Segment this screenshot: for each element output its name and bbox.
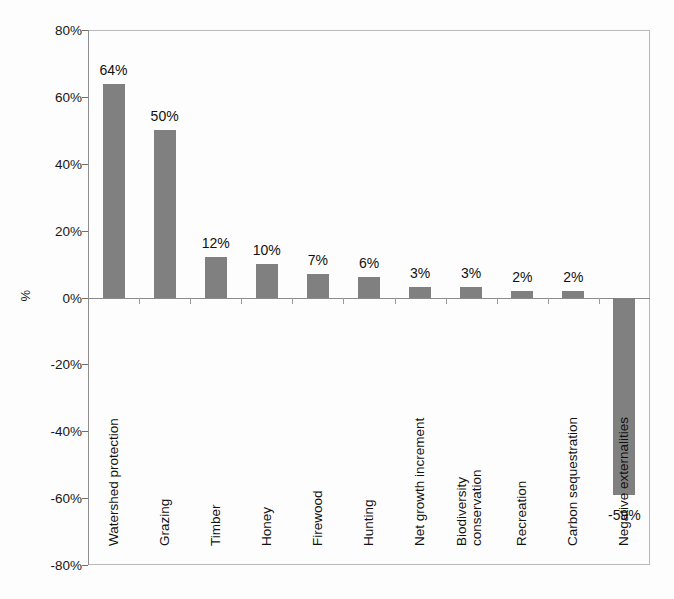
- y-axis-tick-mark: [82, 97, 88, 98]
- y-axis-tick-mark: [82, 431, 88, 432]
- y-axis-tick-mark: [82, 231, 88, 232]
- bar-value-label: 6%: [359, 255, 379, 271]
- x-axis-tick-mark: [497, 298, 498, 304]
- bar-value-label: 2%: [512, 269, 532, 285]
- x-axis-category-label: Hunting: [362, 306, 377, 546]
- bar[interactable]: [154, 130, 176, 297]
- x-axis-tick-mark: [446, 298, 447, 304]
- y-axis-tick-labels: 80%60%40%20%0%-20%-40%-60%-80%: [24, 0, 82, 599]
- bar-value-label: 3%: [461, 265, 481, 281]
- y-axis-tick-mark: [82, 565, 88, 566]
- x-axis-tick-mark: [548, 298, 549, 304]
- y-axis-tick-label: -20%: [26, 357, 82, 372]
- y-axis-tick-label: 80%: [26, 23, 82, 38]
- x-axis-tick-mark: [241, 298, 242, 304]
- y-axis-tick-label: 20%: [26, 223, 82, 238]
- bar-value-label: 3%: [410, 265, 430, 281]
- bar[interactable]: [409, 287, 431, 297]
- y-axis-tick-label: 0%: [26, 290, 82, 305]
- bar-value-label: 12%: [202, 235, 230, 251]
- bar-value-label: 64%: [100, 62, 128, 78]
- bar-value-label: 2%: [563, 269, 583, 285]
- x-axis-tick-mark: [139, 298, 140, 304]
- y-axis-tick-label: -40%: [26, 424, 82, 439]
- y-axis-tick-mark: [82, 30, 88, 31]
- x-axis-category-label: Grazing: [158, 306, 173, 546]
- y-axis-tick-mark: [82, 498, 88, 499]
- y-axis-tick-label: -80%: [26, 558, 82, 573]
- bar-value-label: 50%: [151, 108, 179, 124]
- y-axis-tick-label: 60%: [26, 89, 82, 104]
- x-axis-tick-mark: [395, 298, 396, 304]
- x-axis-tick-mark: [599, 298, 600, 304]
- x-axis-category-label: Timber: [209, 306, 224, 546]
- x-axis-category-label: Honey: [260, 306, 275, 546]
- bar[interactable]: [358, 277, 380, 297]
- x-axis-category-label: Biodiversity conservation: [455, 306, 484, 546]
- y-axis-tick-label: -60%: [26, 491, 82, 506]
- y-axis-tick-label: 40%: [26, 156, 82, 171]
- plot-area: 64%Watershed protection50%Grazing12%Timb…: [88, 30, 650, 565]
- bar[interactable]: [205, 257, 227, 297]
- x-axis-category-label: Recreation: [515, 306, 530, 546]
- bar[interactable]: [307, 274, 329, 297]
- bar[interactable]: [562, 291, 584, 298]
- y-axis-tick-mark: [82, 364, 88, 365]
- bar[interactable]: [511, 291, 533, 298]
- bar[interactable]: [103, 84, 125, 298]
- bar-value-label: 7%: [308, 252, 328, 268]
- x-axis-tick-mark: [292, 298, 293, 304]
- x-axis-category-label: Watershed protection: [107, 306, 122, 546]
- x-axis-category-label: Firewood: [311, 306, 326, 546]
- y-axis-tick-mark: [82, 164, 88, 165]
- x-axis-tick-mark: [190, 298, 191, 304]
- bar[interactable]: [460, 287, 482, 297]
- bar-chart-figure: % 80%60%40%20%0%-20%-40%-60%-80% 64%Wate…: [0, 0, 674, 599]
- bar-value-label: 10%: [253, 242, 281, 258]
- zero-baseline: [88, 298, 650, 299]
- x-axis-tick-mark: [343, 298, 344, 304]
- bar[interactable]: [256, 264, 278, 297]
- x-axis-category-label: Carbon sequestration: [566, 306, 581, 546]
- x-axis-category-label: Negative externalities: [617, 306, 632, 546]
- x-axis-category-label: Net growth increment: [413, 306, 428, 546]
